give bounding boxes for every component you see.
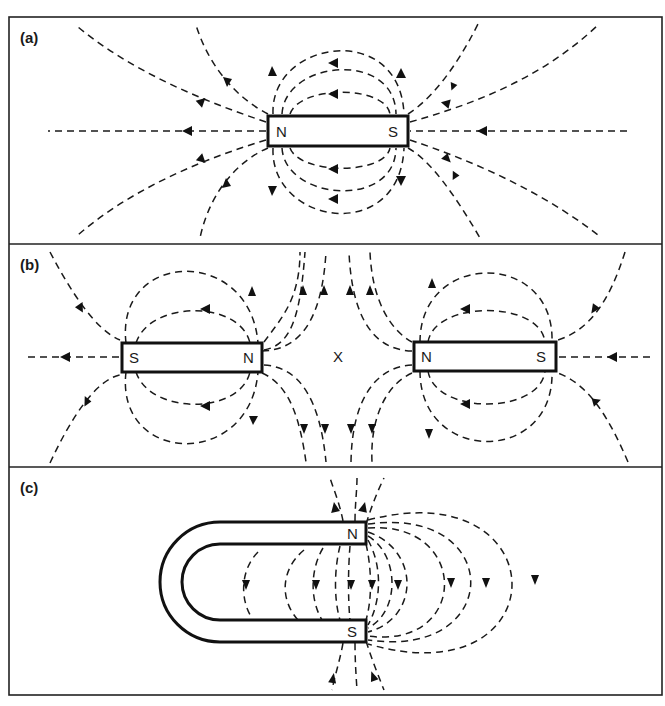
bar-magnet-b-right: N S <box>414 342 556 371</box>
bar-magnet-a: N S <box>268 116 408 146</box>
field-lines-c <box>244 478 512 690</box>
magnetic-field-figure: (a) <box>0 0 665 706</box>
panel-label-c: (c) <box>20 479 38 496</box>
pole-label-s: S <box>347 623 357 640</box>
pole-label-n: N <box>243 349 254 366</box>
pole-label-n: N <box>347 525 358 542</box>
pole-label-s: S <box>129 349 139 366</box>
field-arrows-a <box>138 0 487 204</box>
pole-label-n: N <box>276 123 287 140</box>
panel-c: (c) <box>20 478 539 690</box>
panel-a: (a) <box>20 0 627 238</box>
panel-b: (b) <box>20 252 650 463</box>
panel-label-b: (b) <box>20 256 39 273</box>
bar-magnet-b-left: S N <box>122 343 262 372</box>
pole-label-s: S <box>388 123 398 140</box>
pole-label-s: S <box>536 348 546 365</box>
pole-label-n: N <box>421 348 432 365</box>
panel-label-a: (a) <box>20 29 38 46</box>
neutral-point-marker: X <box>333 348 343 365</box>
